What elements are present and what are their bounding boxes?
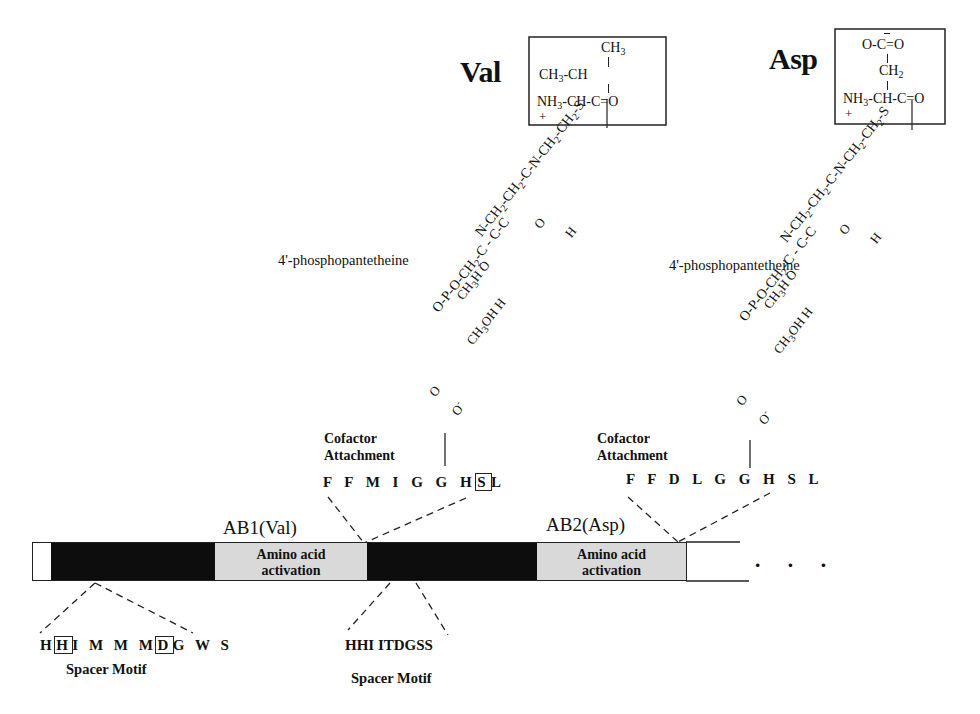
bar-segment-activation-2: Amino acid activation — [537, 543, 687, 580]
asp-charge: + — [845, 106, 852, 122]
activation-label-2: Amino acid activation — [537, 547, 686, 579]
bar-segment-n-terminus — [33, 543, 51, 580]
val-ch3-top: CH3 — [601, 40, 625, 60]
asp-carboxylate: O-C=O — [862, 37, 904, 53]
val-label: Val — [460, 55, 501, 89]
spacer-sequence-1: HHI M M MDG W S — [40, 637, 232, 654]
activation-label-1: Amino acid activation — [215, 547, 367, 579]
boxed-histidine: H — [55, 637, 72, 653]
boxed-aspartate: D — [156, 637, 172, 653]
val-structure: CH3 CH3-CH NH3-CH-C=O + — [529, 37, 666, 125]
domain-label-ab2: AB2(Asp) — [546, 514, 625, 536]
val-charge: + — [539, 109, 546, 125]
cofactor-sequence-2: F F D L G G H S L — [626, 471, 823, 488]
val-ch3-ch: CH3-CH — [539, 67, 588, 87]
spacer-sequence-2: HHI ITDGSS — [345, 637, 433, 654]
protein-domain-bar: Amino acid activation Amino acid activat… — [32, 542, 687, 581]
cofactor-attachment-label-2: Cofactor Attachment — [597, 430, 668, 464]
spacer-motif-label-1: Spacer Motif — [66, 661, 147, 678]
spacer-motif-label-2: Spacer Motif — [351, 670, 432, 687]
domain-label-ab1: AB1(Val) — [223, 517, 297, 539]
bar-segment-spacer-1 — [51, 543, 215, 580]
bar-segment-spacer-2 — [367, 543, 537, 580]
ppant-label-2: 4'-phosphopantetheine — [669, 257, 800, 274]
diagram-lines — [0, 0, 980, 714]
cofactor-attachment-label-1: Cofactor Attachment — [324, 430, 395, 464]
asp-label: Asp — [769, 42, 818, 76]
bar-segment-activation-1: Amino acid activation — [215, 543, 367, 580]
asp-structure: O-C=O CH2 NH3-CH-C=O + — [835, 29, 945, 124]
ppant-label-1: 4'-phosphopantetheine — [278, 252, 409, 269]
boxed-serine: S — [476, 474, 491, 490]
continuation-ellipsis: · · · — [754, 552, 837, 578]
cofactor-sequence-1: F F M I G G HSL — [323, 474, 506, 491]
asp-ch2: CH2 — [879, 63, 903, 83]
